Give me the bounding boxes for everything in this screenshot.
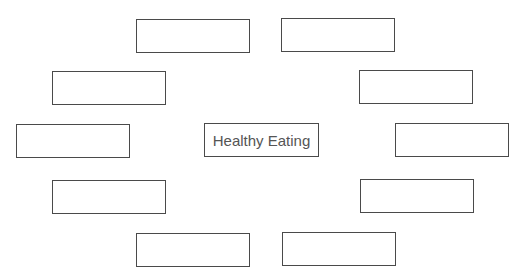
center-topic-box: Healthy Eating <box>204 123 319 157</box>
branch-box-upper-left[interactable] <box>52 71 166 105</box>
branch-box-left[interactable] <box>16 124 130 158</box>
center-topic-label: Healthy Eating <box>213 132 311 149</box>
branch-box-lower-right[interactable] <box>360 179 474 213</box>
branch-box-top-left[interactable] <box>136 19 250 53</box>
branch-box-right[interactable] <box>395 123 509 157</box>
branch-box-bottom-left[interactable] <box>136 233 250 267</box>
branch-box-upper-right[interactable] <box>359 70 473 104</box>
branch-box-top-right[interactable] <box>281 18 395 52</box>
branch-box-bottom-right[interactable] <box>282 232 396 266</box>
branch-box-lower-left[interactable] <box>52 180 166 214</box>
